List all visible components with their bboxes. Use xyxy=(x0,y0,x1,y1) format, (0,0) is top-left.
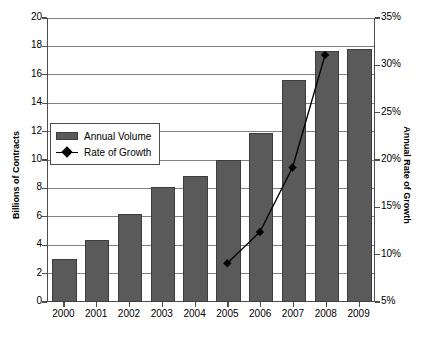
y-axis-left-tick-label: 6 xyxy=(2,210,42,221)
chart-container: Billions of Contracts Annual Rate of Gro… xyxy=(0,0,423,337)
y-axis-left-tick xyxy=(42,103,47,104)
legend-label-annual-volume: Annual Volume xyxy=(84,131,151,142)
y-axis-left-tick xyxy=(42,188,47,189)
y-axis-left-tick-label: 8 xyxy=(2,181,42,192)
x-axis-tick-label: 2009 xyxy=(342,308,375,319)
x-axis-tick-label: 2000 xyxy=(47,308,80,319)
y-axis-right-tick-label: 5% xyxy=(381,295,421,306)
x-axis-tick xyxy=(129,302,130,307)
y-axis-right-tick xyxy=(375,207,380,208)
x-axis-tick xyxy=(359,302,360,307)
y-axis-left-tick-label: 20 xyxy=(2,11,42,22)
x-axis-tick xyxy=(162,302,163,307)
bar-swatch-icon xyxy=(56,132,78,140)
y-axis-right-tick xyxy=(375,254,380,255)
y-axis-right-tick-label: 35% xyxy=(381,11,421,22)
x-axis-tick xyxy=(63,302,64,307)
diamond-marker xyxy=(288,163,296,171)
x-axis-tick xyxy=(195,302,196,307)
y-axis-right-tick-label: 15% xyxy=(381,200,421,211)
y-axis-left-tick xyxy=(42,159,47,160)
x-axis-tick-label: 2002 xyxy=(113,308,146,319)
y-axis-right-tick xyxy=(375,65,380,66)
x-axis-tick-label: 2005 xyxy=(211,308,244,319)
y-axis-right-tick-label: 20% xyxy=(381,153,421,164)
y-axis-right-tick-label: 30% xyxy=(381,58,421,69)
y-axis-right-tick xyxy=(375,301,380,302)
y-axis-right-tick-label: 10% xyxy=(381,248,421,259)
x-axis-tick xyxy=(293,302,294,307)
chart-legend: Annual Volume Rate of Growth xyxy=(50,123,160,165)
y-axis-left-tick-label: 4 xyxy=(2,238,42,249)
y-axis-right-tick xyxy=(375,159,380,160)
x-axis-tick xyxy=(326,302,327,307)
y-axis-left-tick-label: 0 xyxy=(2,295,42,306)
x-axis-tick-label: 2003 xyxy=(145,308,178,319)
x-axis-labels: 2000200120022003200420052006200720082009 xyxy=(47,308,375,326)
y-axis-left-tick-label: 14 xyxy=(2,96,42,107)
y-axis-left-tick-label: 2 xyxy=(2,267,42,278)
diamond-marker xyxy=(321,51,329,59)
x-axis-tick xyxy=(96,302,97,307)
y-axis-left-tick xyxy=(42,74,47,75)
growth-line xyxy=(227,55,325,263)
y-axis-right-tick-label: 25% xyxy=(381,106,421,117)
x-axis-tick-label: 2007 xyxy=(277,308,310,319)
y-axis-left-tick xyxy=(42,131,47,132)
x-axis-tick xyxy=(227,302,228,307)
y-axis-left-tick-label: 16 xyxy=(2,68,42,79)
y-axis-left-tick xyxy=(42,301,47,302)
y-axis-left-tick-label: 18 xyxy=(2,39,42,50)
x-axis-tick xyxy=(260,302,261,307)
x-axis-tick-label: 2008 xyxy=(309,308,342,319)
x-axis-tick-label: 2001 xyxy=(80,308,113,319)
legend-item-annual-volume: Annual Volume xyxy=(56,128,154,144)
x-axis-tick-label: 2006 xyxy=(244,308,277,319)
y-axis-title-right: Annual Rate of Growth xyxy=(402,105,412,245)
x-axis-tick-label: 2004 xyxy=(178,308,211,319)
legend-item-rate-of-growth: Rate of Growth xyxy=(56,144,154,160)
y-axis-right-tick xyxy=(375,112,380,113)
line-diamond-icon xyxy=(56,148,78,157)
y-axis-left-tick xyxy=(42,273,47,274)
y-axis-left-tick xyxy=(42,245,47,246)
y-axis-left-tick-label: 10 xyxy=(2,153,42,164)
y-axis-left-tick xyxy=(42,46,47,47)
y-axis-left-tick-label: 12 xyxy=(2,125,42,136)
y-axis-left-tick xyxy=(42,216,47,217)
y-axis-left-tick xyxy=(42,17,47,18)
legend-label-rate-of-growth: Rate of Growth xyxy=(84,147,151,158)
y-axis-right-tick xyxy=(375,17,380,18)
